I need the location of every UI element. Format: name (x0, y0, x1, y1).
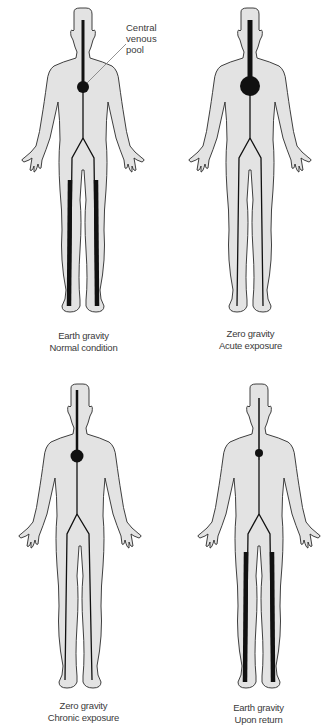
central-venous-pool (240, 76, 260, 96)
panel-earth-return: Earth gravity Upon return (167, 364, 334, 728)
human-figure (167, 364, 334, 728)
panel-caption: Zero gravity Chronic exposure (0, 700, 167, 724)
panel-zero-acute: Zero gravity Acute exposure (167, 0, 334, 364)
panel-zero-chronic: Zero gravity Chronic exposure (0, 364, 167, 728)
human-figure (167, 0, 334, 364)
body-silhouette (19, 384, 141, 688)
human-figure (0, 364, 167, 728)
panel-earth-normal: Central venous pool Earth gravity Normal… (0, 0, 167, 364)
callout-label: Central venous pool (126, 22, 157, 55)
central-venous-pool (255, 449, 263, 457)
panel-caption: Zero gravity Acute exposure (167, 328, 334, 352)
panel-caption: Earth gravity Upon return (175, 702, 334, 726)
central-venous-pool (71, 450, 84, 463)
panel-caption: Earth gravity Normal condition (0, 330, 167, 354)
